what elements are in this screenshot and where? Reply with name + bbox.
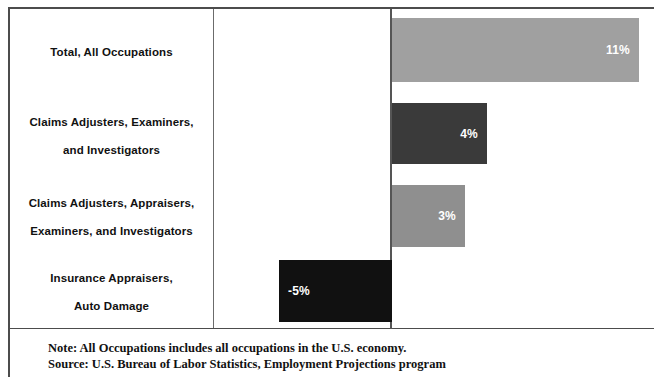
bar-value-label: 4% bbox=[460, 127, 478, 141]
category-label-lines: Claims Adjusters, Appraisers, Examiners,… bbox=[29, 196, 195, 238]
chart-row: Total, All Occupations 11% bbox=[8, 9, 654, 95]
category-label-line1: Claims Adjusters, Examiners, bbox=[29, 115, 193, 129]
footnote-note-line: Note: All Occupations includes all occup… bbox=[48, 340, 654, 356]
footnote-source-line: Source: U.S. Bureau of Labor Statistics,… bbox=[48, 356, 654, 372]
category-label-claims-adjusters-appraisers-examiners-investigators: Claims Adjusters, Appraisers, Examiners,… bbox=[10, 177, 213, 256]
category-label-insurance-appraisers-auto-damage: Insurance Appraisers, Auto Damage bbox=[10, 256, 213, 328]
category-label-line2: and Investigators bbox=[29, 143, 193, 157]
bar-claims-adjusters-appraisers-examiners-investigators: 3% bbox=[392, 185, 465, 247]
bar-insurance-appraisers-auto-damage: -5% bbox=[279, 260, 392, 322]
chart-row: Claims Adjusters, Examiners, and Investi… bbox=[8, 95, 654, 177]
plot-area: Total, All Occupations 11% Claims Adjust… bbox=[8, 9, 654, 328]
category-label-line1: Insurance Appraisers, bbox=[50, 271, 172, 285]
bar-value-label: 3% bbox=[438, 209, 456, 223]
bar-value-label: 11% bbox=[606, 43, 630, 57]
footnote-block: Note: All Occupations includes all occup… bbox=[10, 329, 654, 377]
category-label-line1: Claims Adjusters, Appraisers, bbox=[29, 196, 195, 210]
chart-row: Claims Adjusters, Appraisers, Examiners,… bbox=[8, 177, 654, 256]
category-label-line2: Auto Damage bbox=[50, 299, 172, 313]
category-label-line1: Total, All Occupations bbox=[50, 45, 172, 59]
bar-value-label: -5% bbox=[288, 284, 310, 298]
category-label-lines: Claims Adjusters, Examiners, and Investi… bbox=[29, 115, 193, 157]
bar-total-all-occupations: 11% bbox=[392, 18, 639, 82]
category-label-total-all-occupations: Total, All Occupations bbox=[10, 9, 213, 95]
bar-chart-figure: Total, All Occupations 11% Claims Adjust… bbox=[8, 7, 654, 377]
bar-claims-adjusters-examiners-investigators: 4% bbox=[392, 103, 487, 164]
category-label-lines: Insurance Appraisers, Auto Damage bbox=[50, 271, 172, 313]
category-label-line2: Examiners, and Investigators bbox=[29, 224, 195, 238]
category-label-claims-adjusters-examiners-investigators: Claims Adjusters, Examiners, and Investi… bbox=[10, 95, 213, 177]
chart-row: Insurance Appraisers, Auto Damage -5% bbox=[8, 256, 654, 328]
